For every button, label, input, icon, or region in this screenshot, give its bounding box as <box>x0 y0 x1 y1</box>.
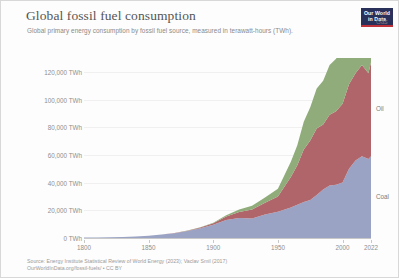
x-axis-tick-label: 1950 <box>271 244 285 251</box>
x-axis-tick-label: 1800 <box>77 244 91 251</box>
x-axis-tick-label: 2022 <box>364 244 378 251</box>
x-axis-tick-label: 1850 <box>142 244 156 251</box>
x-axis-tick-mark <box>213 240 214 243</box>
x-axis-tick-mark <box>149 240 150 243</box>
chart-figure: Global fossil fuel consumption Global pr… <box>0 0 399 278</box>
y-axis-tick-label: 20,000 TWh <box>48 207 82 214</box>
source-note: Source: Energy Institute Statistical Rev… <box>27 258 227 266</box>
y-axis-tick-label: 100,000 TWh <box>44 96 82 103</box>
x-axis-tick-label: 2000 <box>336 244 350 251</box>
y-axis-tick-label: 40,000 TWh <box>48 179 82 186</box>
y-axis-tick-label: 120,000 TWh <box>44 68 82 75</box>
series-label-gas[interactable]: Gas <box>376 18 388 25</box>
y-axis-tick-label: 60,000 TWh <box>48 151 82 158</box>
x-axis-tick-mark <box>371 240 372 243</box>
chart-subtitle: Global primary energy consumption by fos… <box>27 27 293 34</box>
y-axis-labels: 0 TWh20,000 TWh40,000 TWh60,000 TWh80,00… <box>26 58 82 244</box>
x-axis-baseline <box>84 238 371 239</box>
x-axis-labels: 180018501900195020002022 <box>84 244 371 256</box>
series-label-coal[interactable]: Coal <box>376 193 389 200</box>
series-label-oil[interactable]: Oil <box>376 105 384 112</box>
x-axis-tick-mark <box>84 240 85 243</box>
x-axis-tick-mark <box>343 240 344 243</box>
chart-title: Global fossil fuel consumption <box>26 8 196 24</box>
license-note[interactable]: OurWorldInData.org/fossil-fuels/ • CC BY <box>27 265 227 273</box>
stacked-area-plot <box>84 58 371 238</box>
chart-footer: Source: Energy Institute Statistical Rev… <box>27 258 227 273</box>
y-axis-tick-label: 0 TWh <box>64 235 82 242</box>
area-series-svg <box>84 58 371 238</box>
y-axis-tick-label: 80,000 TWh <box>48 124 82 131</box>
x-axis-tick-label: 1900 <box>206 244 220 251</box>
x-axis-tick-mark <box>278 240 279 243</box>
plot-area: 0 TWh20,000 TWh40,000 TWh60,000 TWh80,00… <box>26 58 371 244</box>
